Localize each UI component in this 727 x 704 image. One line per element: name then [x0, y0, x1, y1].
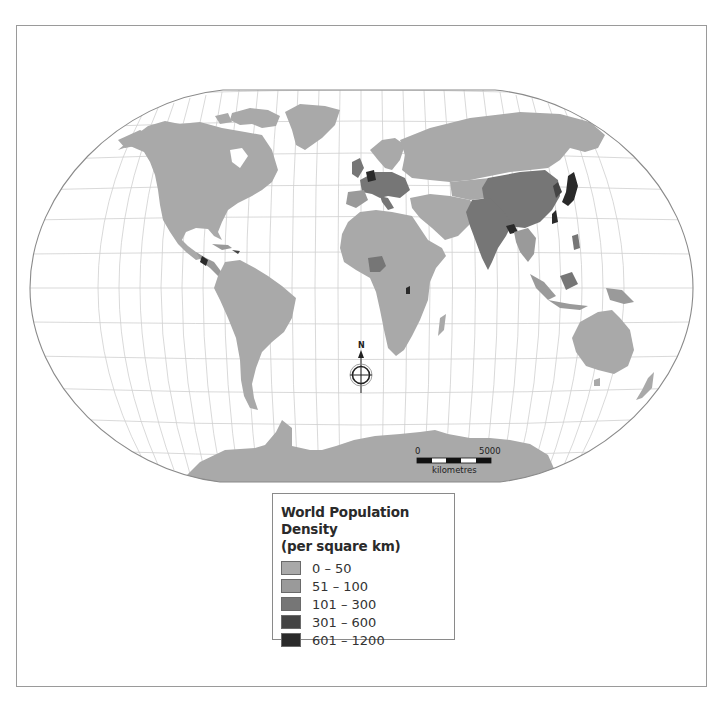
legend-swatch: [281, 561, 301, 575]
scale-end-label: 5000: [479, 446, 501, 456]
legend-item: 51 – 100: [281, 577, 446, 595]
north-label: N: [358, 341, 365, 350]
legend-swatch: [281, 579, 301, 593]
legend-label: 101 – 300: [312, 597, 376, 612]
legend-label: 301 – 600: [312, 615, 376, 630]
scale-start-label: 0: [415, 446, 420, 456]
legend: World Population Density (per square km)…: [272, 493, 455, 640]
legend-title-line2: (per square km): [281, 538, 446, 555]
legend-label: 0 – 50: [312, 561, 352, 576]
scale-unit-label: kilometres: [432, 465, 477, 475]
legend-label: 601 – 1200: [312, 633, 385, 648]
legend-items: 0 – 50 51 – 100 101 – 300 301 – 600 601 …: [281, 559, 446, 649]
legend-item: 0 – 50: [281, 559, 446, 577]
legend-title-line1: World Population Density: [281, 504, 446, 538]
legend-swatch: [281, 633, 301, 647]
legend-item: 301 – 600: [281, 613, 446, 631]
legend-item: 601 – 1200: [281, 631, 446, 649]
legend-label: 51 – 100: [312, 579, 368, 594]
legend-swatch: [281, 615, 301, 629]
legend-item: 101 – 300: [281, 595, 446, 613]
legend-swatch: [281, 597, 301, 611]
legend-title: World Population Density (per square km): [281, 504, 446, 555]
